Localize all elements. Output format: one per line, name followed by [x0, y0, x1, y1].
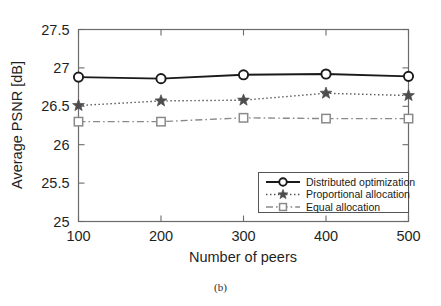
square-marker — [157, 117, 165, 125]
legend-label: Distributed optimization — [306, 176, 415, 188]
y-tick-label: 26.5 — [41, 98, 69, 114]
square-marker — [322, 114, 330, 122]
circle-marker — [404, 72, 413, 81]
y-tick-label: 27 — [53, 60, 69, 76]
y-axis-title: Average PSNR [dB] — [9, 61, 25, 189]
x-tick-label: 500 — [396, 228, 420, 244]
x-tick-label: 400 — [314, 228, 338, 244]
x-tick-label: 100 — [66, 228, 90, 244]
circle-marker — [321, 69, 330, 78]
square-marker — [280, 204, 287, 211]
square-marker — [404, 114, 412, 122]
circle-marker — [156, 74, 165, 83]
figure-caption: (b) — [0, 281, 441, 293]
x-tick-label: 300 — [231, 228, 255, 244]
circle-marker — [239, 70, 248, 79]
circle-marker — [74, 73, 83, 82]
square-marker — [239, 114, 247, 122]
y-axis-tick-labels: 2525.52626.52727.5 — [41, 22, 69, 230]
circle-marker — [279, 178, 287, 186]
square-marker — [74, 117, 82, 125]
chart-legend[interactable]: Distributed optimizationProportional all… — [259, 173, 416, 213]
legend-label: Equal allocation — [306, 201, 380, 213]
legend-label: Proportional allocation — [306, 188, 410, 200]
y-tick-label: 26 — [53, 137, 69, 153]
x-tick-label: 200 — [149, 228, 173, 244]
y-tick-label: 27.5 — [41, 22, 69, 38]
figure-root: 2525.52626.52727.5 100200300400500 Numbe… — [0, 0, 441, 306]
y-tick-label: 25.5 — [41, 175, 69, 191]
x-axis-title: Number of peers — [189, 249, 297, 265]
psnr-vs-peers-line-chart: 2525.52626.52727.5 100200300400500 Numbe… — [0, 0, 441, 306]
x-axis-tick-labels: 100200300400500 — [66, 228, 420, 244]
